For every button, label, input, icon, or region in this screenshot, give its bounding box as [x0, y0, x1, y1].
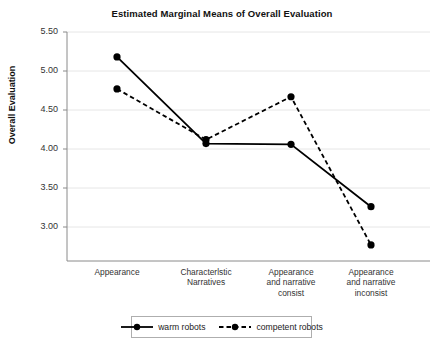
series-line-competent-robots — [117, 89, 371, 245]
x-tick-label-line: Appearance — [325, 267, 417, 277]
series-line-warm-robots — [117, 57, 371, 207]
legend-label: warm robots — [158, 322, 205, 332]
data-point — [113, 85, 120, 92]
legend-swatch-dashed — [218, 322, 252, 332]
data-point — [287, 93, 294, 100]
chart-container: Estimated Marginal Means of Overall Eval… — [0, 0, 444, 359]
y-tick-label: 5.00 — [22, 65, 58, 75]
legend-label: competent robots — [256, 322, 322, 332]
y-tick-label: 4.00 — [22, 143, 58, 153]
y-tick-marks — [63, 32, 67, 227]
y-tick-label: 3.00 — [22, 221, 58, 231]
y-tick-label: 5.50 — [22, 26, 58, 36]
legend-swatch-solid — [120, 322, 154, 332]
x-tick-label: CharacterlsticNarratives — [160, 267, 252, 288]
x-tick-label: Appearanceand narrativeinconsist — [325, 267, 417, 298]
data-point — [202, 136, 209, 143]
legend-entry[interactable]: competent robots — [218, 322, 322, 332]
x-tick-label-line: consist — [245, 288, 337, 298]
x-tick-label-line: Appearance — [245, 267, 337, 277]
x-tick-label-line: Appearance — [71, 267, 163, 277]
plot-area — [0, 0, 444, 359]
data-point — [287, 141, 294, 148]
legend-entry[interactable]: warm robots — [120, 322, 205, 332]
x-tick-label-line: Characterlstic — [160, 267, 252, 277]
x-tick-label-line: and narrative — [325, 277, 417, 287]
x-tick-label-line: and narrative — [245, 277, 337, 287]
data-point — [367, 203, 374, 210]
x-tick-label-line: inconsist — [325, 288, 417, 298]
y-tick-label: 3.50 — [22, 182, 58, 192]
data-point — [113, 53, 120, 60]
y-tick-label: 4.50 — [22, 104, 58, 114]
series-layer — [113, 53, 374, 248]
x-tick-label: Appearance — [71, 267, 163, 277]
x-tick-label: Appearanceand narrativeconsist — [245, 267, 337, 298]
legend: warm robotscompetent robots — [131, 316, 312, 338]
x-tick-label-line: Narratives — [160, 277, 252, 287]
data-point — [367, 241, 374, 248]
